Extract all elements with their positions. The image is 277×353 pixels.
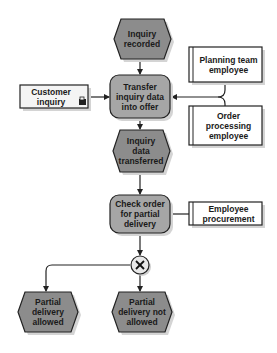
org-planning-team-employee[interactable]	[189, 47, 262, 82]
org-order-processing-employee[interactable]	[189, 106, 262, 145]
function-transfer-inquiry-data[interactable]	[110, 75, 170, 118]
line-order-processing-to-transfer	[218, 97, 225, 106]
event-partial-delivery-allowed[interactable]	[18, 292, 78, 332]
info-customer-inquiry[interactable]	[20, 85, 88, 108]
function-check-order[interactable]	[110, 195, 170, 233]
arrow-xor-to-allowed	[46, 265, 130, 291]
event-partial-delivery-not-allowed[interactable]	[112, 292, 172, 332]
diagram-canvas	[0, 0, 277, 353]
event-inquiry-recorded[interactable]	[114, 19, 171, 59]
event-inquiry-data-transferred[interactable]	[113, 130, 170, 172]
org-employee-procurement[interactable]	[189, 202, 262, 225]
